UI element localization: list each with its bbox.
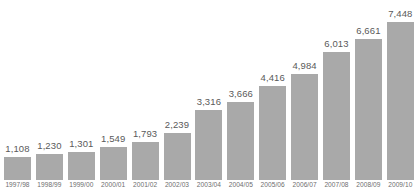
x-axis-tick-label: 2009/10 bbox=[380, 181, 419, 188]
bar-group[interactable]: 2,239 bbox=[164, 2, 191, 180]
x-axis-labels: 1997/981998/991999/002000/012001/022002/… bbox=[0, 180, 419, 196]
bar-value-label: 1,301 bbox=[69, 138, 93, 149]
bar[interactable] bbox=[387, 22, 414, 180]
bar[interactable] bbox=[195, 110, 222, 180]
bar-group[interactable]: 6,013 bbox=[323, 2, 350, 180]
plot-area: 1,1081,2301,3011,5491,7932,2393,3163,666… bbox=[0, 0, 419, 180]
bar-group[interactable]: 1,301 bbox=[68, 2, 95, 180]
bar-group[interactable]: 4,984 bbox=[291, 2, 318, 180]
bar[interactable] bbox=[132, 142, 159, 180]
bar-group[interactable]: 1,793 bbox=[132, 2, 159, 180]
bar-group[interactable]: 3,666 bbox=[227, 2, 254, 180]
bar-value-label: 1,549 bbox=[101, 133, 125, 144]
bar-group[interactable]: 7,448 bbox=[387, 2, 414, 180]
bar-group[interactable]: 3,316 bbox=[195, 2, 222, 180]
bar[interactable] bbox=[68, 152, 95, 180]
bar-value-label: 3,316 bbox=[197, 96, 221, 107]
bar-value-label: 1,230 bbox=[37, 140, 61, 151]
bar[interactable] bbox=[291, 74, 318, 180]
bar-value-label: 1,108 bbox=[5, 143, 29, 154]
bar-group[interactable]: 1,549 bbox=[100, 2, 127, 180]
bar[interactable] bbox=[164, 133, 191, 180]
bar-group[interactable]: 1,108 bbox=[4, 2, 31, 180]
bar[interactable] bbox=[4, 157, 31, 181]
bar-group[interactable]: 6,661 bbox=[355, 2, 382, 180]
bar-chart: 1,1081,2301,3011,5491,7932,2393,3163,666… bbox=[0, 0, 419, 196]
bar-value-label: 1,793 bbox=[133, 128, 157, 139]
bar-value-label: 3,666 bbox=[229, 88, 253, 99]
bar[interactable] bbox=[355, 39, 382, 180]
bar-value-label: 2,239 bbox=[165, 119, 189, 130]
bar-value-label: 4,984 bbox=[292, 60, 316, 71]
bar[interactable] bbox=[100, 147, 127, 180]
bar[interactable] bbox=[259, 86, 286, 180]
bar[interactable] bbox=[227, 102, 254, 180]
bar-value-label: 7,448 bbox=[388, 8, 412, 19]
bar[interactable] bbox=[36, 154, 63, 180]
bar-value-label: 6,013 bbox=[324, 38, 348, 49]
bar-group[interactable]: 1,230 bbox=[36, 2, 63, 180]
bar-value-label: 4,416 bbox=[261, 72, 285, 83]
bar[interactable] bbox=[323, 52, 350, 180]
bar-group[interactable]: 4,416 bbox=[259, 2, 286, 180]
bar-value-label: 6,661 bbox=[356, 25, 380, 36]
